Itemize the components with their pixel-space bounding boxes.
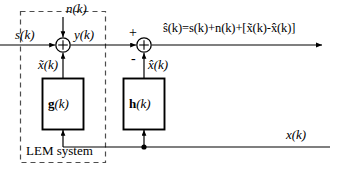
- label-signal-x-hat: x̂(k): [148, 58, 168, 71]
- label-signal-s: s(k): [15, 28, 35, 41]
- block-g-label: g(k): [48, 97, 69, 110]
- block-g-label-arg: (k): [55, 96, 69, 111]
- label-output-equation: ŝ(k)=s(k)+n(k)+[x̃(k)-x̂(k)]: [163, 22, 295, 35]
- block-h-label-arg: (k): [136, 96, 150, 111]
- label-signal-n: n(k): [66, 2, 87, 15]
- diagram-canvas: s(k) n(k) y(k) x̃(k) x̂(k) x(k) ŝ(k)=s(…: [0, 0, 337, 182]
- block-h-label: h(k): [129, 97, 151, 110]
- label-signal-x-tilde: x̃(k): [38, 58, 58, 71]
- label-signal-y: y(k): [74, 28, 94, 41]
- label-sign-plus: +: [129, 26, 137, 40]
- label-sign-minus: -: [131, 52, 136, 66]
- lem-system-label: LEM system: [26, 144, 93, 157]
- label-signal-x: x(k): [286, 128, 306, 141]
- summing-junction-2: [137, 38, 151, 52]
- junction-dot-x-bus: [141, 144, 146, 149]
- summing-junction-1: [56, 38, 70, 52]
